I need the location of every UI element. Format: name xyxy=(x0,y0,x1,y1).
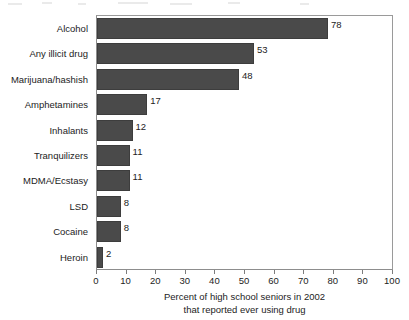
bar xyxy=(97,18,328,39)
x-tick-label: 90 xyxy=(357,275,368,286)
chart-screenshot: AlcoholAny illicit drugMarijuana/hashish… xyxy=(0,0,409,320)
x-tick-mark xyxy=(362,270,363,274)
bar-value-label: 8 xyxy=(124,223,129,233)
x-tick-mark xyxy=(126,270,127,274)
bar-value-label: 78 xyxy=(331,20,342,30)
bar xyxy=(97,120,133,141)
x-axis-caption-line2: that reported ever using drug xyxy=(96,304,393,317)
x-tick-label: 60 xyxy=(268,275,279,286)
bar-row: 8 xyxy=(97,219,393,244)
bar xyxy=(97,43,254,64)
category-label: Amphetamines xyxy=(0,92,92,117)
bar xyxy=(97,221,121,242)
bar xyxy=(97,69,239,90)
bar-row: 12 xyxy=(97,118,393,143)
bar-value-label: 48 xyxy=(242,71,253,81)
bar-row: 8 xyxy=(97,194,393,219)
category-label: Alcohol xyxy=(0,16,92,41)
bar-value-label: 2 xyxy=(106,249,111,259)
scan-artifact xyxy=(170,3,192,5)
x-tick-mark xyxy=(155,270,156,274)
x-tick-label: 80 xyxy=(328,275,339,286)
scan-artifact xyxy=(300,3,309,5)
x-tick-mark xyxy=(185,270,186,274)
x-tick-mark xyxy=(274,270,275,274)
bar-row: 78 xyxy=(97,16,393,41)
bar-row: 11 xyxy=(97,143,393,168)
bar xyxy=(97,247,103,268)
bar-value-label: 11 xyxy=(133,147,143,157)
bar-value-label: 17 xyxy=(150,96,161,106)
bar xyxy=(97,94,147,115)
x-tick-label: 40 xyxy=(209,275,220,286)
x-tick-mark xyxy=(392,270,393,274)
scan-artifact xyxy=(118,2,148,4)
bar-value-label: 12 xyxy=(136,122,147,132)
x-tick-mark xyxy=(244,270,245,274)
x-tick-label: 0 xyxy=(93,275,98,286)
bar-value-label: 8 xyxy=(124,198,129,208)
bar xyxy=(97,170,130,191)
category-label: Marijuana/hashish xyxy=(0,67,92,92)
bar-row: 17 xyxy=(97,92,393,117)
scan-artifact xyxy=(78,3,86,5)
category-label: Inhalants xyxy=(0,118,92,143)
bars-layer: 78534817121111882 xyxy=(97,16,393,270)
category-label: Any illicit drug xyxy=(0,41,92,66)
bar-row: 11 xyxy=(97,168,393,193)
category-axis-labels: AlcoholAny illicit drugMarijuana/hashish… xyxy=(0,16,92,270)
bar-row: 53 xyxy=(97,41,393,66)
x-tick-mark xyxy=(333,270,334,274)
bar-value-label: 53 xyxy=(257,45,268,55)
category-label: Heroin xyxy=(0,245,92,270)
scan-artifact xyxy=(228,2,240,4)
x-axis-caption: Percent of high school seniors in 2002 t… xyxy=(96,291,393,316)
category-label: MDMA/Ecstasy xyxy=(0,168,92,193)
x-tick-mark xyxy=(214,270,215,274)
scan-artifact xyxy=(8,3,22,5)
scan-artifact xyxy=(42,2,52,4)
category-label: Cocaine xyxy=(0,219,92,244)
x-tick-label: 30 xyxy=(180,275,191,286)
category-label: LSD xyxy=(0,194,92,219)
bar-row: 48 xyxy=(97,67,393,92)
bar xyxy=(97,196,121,217)
x-tick-mark xyxy=(303,270,304,274)
bar-row: 2 xyxy=(97,245,393,270)
x-tick-label: 10 xyxy=(120,275,131,286)
x-tick-label: 70 xyxy=(298,275,309,286)
x-tick-label: 20 xyxy=(150,275,161,286)
x-axis: 0102030405060708090100 xyxy=(96,270,393,290)
x-tick-label: 100 xyxy=(384,275,400,286)
x-tick-label: 50 xyxy=(239,275,250,286)
category-label: Tranquilizers xyxy=(0,143,92,168)
x-tick-mark xyxy=(96,270,97,274)
bar xyxy=(97,145,130,166)
bar-value-label: 11 xyxy=(133,172,143,182)
x-axis-caption-line1: Percent of high school seniors in 2002 xyxy=(96,291,393,304)
